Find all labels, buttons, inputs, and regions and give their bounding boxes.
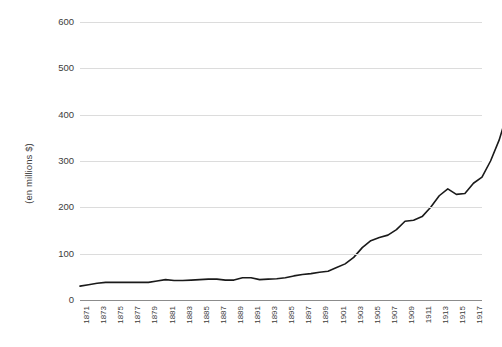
y-tick-label: 600 (36, 17, 74, 27)
y-tick-label: 400 (36, 110, 74, 120)
gridline-300 (80, 161, 482, 162)
x-tick-label: 1907 (391, 306, 399, 324)
x-tick-label: 1913 (442, 306, 450, 324)
x-tick-label: 1915 (459, 306, 467, 324)
gridline-600 (80, 22, 482, 23)
x-tick-label: 1871 (83, 306, 91, 324)
y-tick-label: 300 (36, 156, 74, 166)
gridline-200 (80, 207, 482, 208)
y-tick-label: 200 (36, 202, 74, 212)
x-tick-label: 1883 (186, 306, 194, 324)
x-tick-label: 1911 (425, 306, 433, 323)
x-tick-label: 1897 (305, 306, 313, 324)
x-tick-label: 1903 (357, 306, 365, 324)
x-tick-label: 1873 (100, 306, 108, 324)
x-tick-label: 1901 (340, 306, 348, 324)
x-tick-label: 1881 (169, 306, 177, 324)
x-tick-label: 1877 (134, 306, 142, 324)
x-tick-label: 1909 (408, 306, 416, 324)
x-tick-label: 1875 (117, 306, 125, 324)
gridline-400 (80, 115, 482, 116)
plot-area (80, 22, 482, 300)
gridline-0 (80, 300, 482, 301)
line-chart: (en millions $) 0100200300400500600 1871… (0, 0, 502, 347)
y-tick-label: 100 (36, 249, 74, 259)
x-tick-label: 1917 (476, 306, 484, 324)
series-line-path (80, 41, 502, 287)
x-tick-label: 1885 (203, 306, 211, 324)
x-tick-label: 1893 (271, 306, 279, 324)
x-tick-label: 1879 (151, 306, 159, 324)
x-axis-tick-labels: 1871187318751877187918811883188518871889… (0, 302, 502, 347)
x-tick-label: 1895 (288, 306, 296, 324)
gridline-500 (80, 68, 482, 69)
x-tick-label: 1887 (220, 306, 228, 324)
y-tick-label: 500 (36, 63, 74, 73)
x-tick-label: 1889 (237, 306, 245, 324)
x-tick-label: 1891 (254, 306, 262, 324)
x-tick-label: 1905 (374, 306, 382, 324)
gridline-100 (80, 254, 482, 255)
x-tick-label: 1899 (322, 306, 330, 324)
